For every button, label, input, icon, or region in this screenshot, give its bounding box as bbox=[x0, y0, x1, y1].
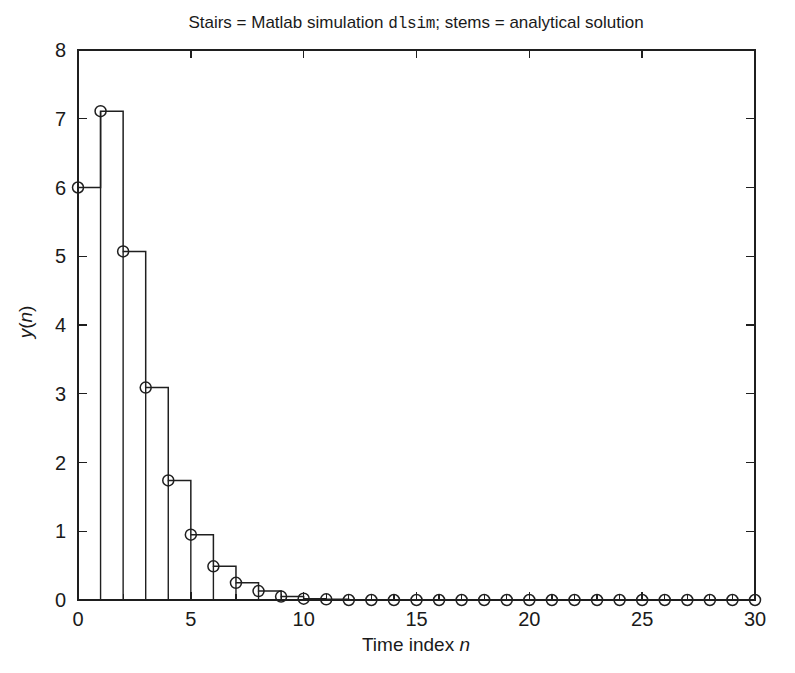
x-axis-tick-labels: 051015202530 bbox=[72, 608, 766, 630]
svg-text:25: 25 bbox=[631, 608, 653, 630]
svg-text:8: 8 bbox=[55, 39, 66, 61]
stairs-series bbox=[78, 111, 755, 600]
svg-text:20: 20 bbox=[518, 608, 540, 630]
svg-text:7: 7 bbox=[55, 108, 66, 130]
figure-canvas: Stairs = Matlab simulation dlsim; stems … bbox=[0, 0, 795, 673]
plot-svg: Stairs = Matlab simulation dlsim; stems … bbox=[0, 0, 795, 673]
x-axis-ticks bbox=[78, 50, 755, 600]
svg-text:1: 1 bbox=[55, 520, 66, 542]
svg-text:5: 5 bbox=[185, 608, 196, 630]
svg-text:2: 2 bbox=[55, 452, 66, 474]
svg-text:15: 15 bbox=[405, 608, 427, 630]
x-axis-label: Time index n bbox=[362, 634, 470, 655]
stem-series bbox=[78, 111, 755, 600]
svg-text:30: 30 bbox=[744, 608, 766, 630]
svg-text:4: 4 bbox=[55, 314, 66, 336]
y-axis-ticks bbox=[78, 50, 755, 531]
y-axis-tick-labels: 012345678 bbox=[55, 39, 66, 611]
axis-box bbox=[78, 50, 755, 600]
svg-text:6: 6 bbox=[55, 177, 66, 199]
svg-text:5: 5 bbox=[55, 245, 66, 267]
y-axis-label: y(n) bbox=[15, 306, 36, 341]
svg-text:0: 0 bbox=[72, 608, 83, 630]
svg-text:0: 0 bbox=[55, 589, 66, 611]
plot-title: Stairs = Matlab simulation dlsim; stems … bbox=[188, 13, 643, 33]
stem-markers bbox=[73, 106, 761, 606]
svg-text:10: 10 bbox=[293, 608, 315, 630]
svg-text:3: 3 bbox=[55, 383, 66, 405]
